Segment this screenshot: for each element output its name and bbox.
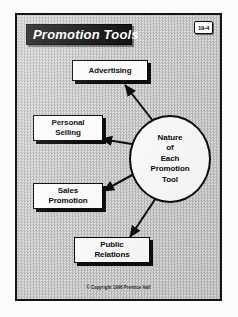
slide-title-banner: Promotion Tools [26, 24, 132, 45]
node-sales-promotion[interactable]: Sales Promotion [33, 183, 103, 209]
node-personal-selling[interactable]: Personal Selling [33, 115, 103, 141]
node-public-relations[interactable]: Public Relations [74, 237, 150, 263]
node-advertising[interactable]: Advertising [72, 60, 148, 81]
page-number-badge: 19-4 [194, 21, 213, 34]
center-node-nature-of-each-promotion-tool[interactable]: Nature of Each Promotion Tool [129, 115, 211, 203]
node-advertising-label: Advertising [89, 66, 132, 76]
promotion-tools-diagram: Advertising Personal Selling Sales Promo… [17, 15, 220, 299]
page-number-text: 19-4 [198, 25, 209, 31]
connector-center-personal-selling [101, 139, 132, 144]
node-public-relations-label: Public Relations [94, 240, 129, 260]
copyright-notice: © Copyright 1996 Prentice Hall [17, 285, 220, 291]
connector-center-sales-promotion [103, 174, 134, 191]
node-sales-promotion-label: Sales Promotion [48, 186, 87, 206]
page-title: Promotion Tools [33, 28, 139, 41]
connector-center-public-relations [130, 195, 158, 237]
slide-scan: Advertising Personal Selling Sales Promo… [0, 0, 238, 317]
center-node-label: Nature of Each Promotion Tool [150, 133, 189, 185]
node-personal-selling-label: Personal Selling [52, 118, 85, 138]
slide-frame: Advertising Personal Selling Sales Promo… [15, 13, 222, 301]
